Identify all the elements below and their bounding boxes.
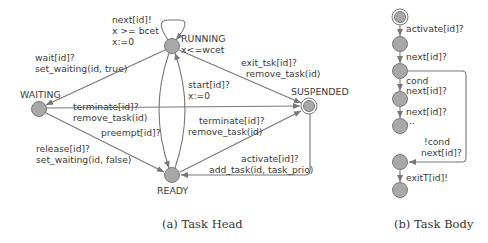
caption-task-body: (b) Task Body bbox=[394, 217, 474, 231]
state-running-invariant: x<=wcet bbox=[181, 44, 225, 55]
diagram-canvas: RUNNING x<=wcet WAITING SUSPENDED READY … bbox=[0, 0, 488, 243]
label-running-self-2: x >= bcet bbox=[112, 25, 159, 36]
label-exit-tsk-2: remove_task(id) bbox=[246, 68, 320, 79]
state-waiting bbox=[32, 102, 47, 117]
body-state-6 bbox=[393, 155, 408, 170]
label-activate-2: add_task(id, task_prio) bbox=[209, 164, 313, 175]
edge-running-to-ready bbox=[159, 53, 169, 168]
label-terminate-ready-2: remove_task(id) bbox=[188, 126, 262, 137]
body-label-activate: activate[id]? bbox=[406, 23, 464, 34]
state-running-label: RUNNING bbox=[181, 33, 225, 44]
label-running-self-1: next[id]! bbox=[112, 14, 152, 25]
label-exit-tsk-1: exit_tsk[id]? bbox=[241, 57, 297, 68]
state-ready-label: READY bbox=[157, 185, 189, 196]
label-start-1: start[id]? bbox=[188, 79, 230, 90]
edge-ready-to-running bbox=[175, 53, 185, 168]
label-start-2: x:=0 bbox=[188, 90, 210, 101]
state-ready bbox=[165, 168, 180, 183]
body-label-exit: exitT[id]! bbox=[406, 172, 448, 183]
task-body: activate[id]? next[id]? cond next[id]? n… bbox=[392, 9, 474, 231]
label-release-2: set_waiting(id, false) bbox=[36, 154, 131, 165]
body-label-not-cond-next: next[id]? bbox=[421, 147, 462, 158]
body-label-next-1: next[id]? bbox=[406, 51, 447, 62]
task-head: RUNNING x<=wcet WAITING SUSPENDED READY … bbox=[20, 14, 349, 231]
label-activate-1: activate[id]? bbox=[241, 153, 299, 164]
state-waiting-label: WAITING bbox=[20, 89, 61, 100]
caption-task-head: (a) Task Head bbox=[162, 217, 243, 231]
label-wait-2: set_waiting(id, true) bbox=[35, 63, 127, 74]
body-label-not-cond: !cond bbox=[424, 136, 450, 147]
body-state-2 bbox=[393, 37, 408, 52]
state-running bbox=[165, 39, 180, 54]
body-label-cond-next: next[id]? bbox=[406, 85, 447, 96]
body-state-initial bbox=[395, 12, 406, 23]
state-suspended bbox=[304, 101, 315, 112]
label-wait-1: wait[id]? bbox=[35, 52, 75, 63]
label-terminate-waiting-1: terminate[id]? bbox=[73, 101, 139, 112]
state-suspended-label: SUSPENDED bbox=[291, 86, 349, 97]
body-state-final bbox=[393, 183, 408, 198]
label-preempt: preempt[id]? bbox=[101, 127, 161, 138]
body-label-ellipsis: ... bbox=[406, 115, 415, 126]
label-release-1: release[id]? bbox=[36, 143, 90, 154]
label-terminate-waiting-2: remove_task(id) bbox=[73, 112, 147, 123]
label-terminate-ready-1: terminate[id]? bbox=[199, 115, 265, 126]
label-running-self-3: x:=0 bbox=[112, 36, 134, 47]
